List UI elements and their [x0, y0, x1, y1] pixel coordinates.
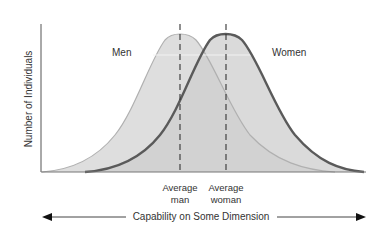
average-woman-label-line1: Average [208, 182, 243, 193]
average-man-label-line1: Average [162, 182, 197, 193]
women-label: Women [272, 47, 306, 58]
right-arrow-icon [356, 213, 366, 221]
men-label: Men [112, 47, 131, 58]
x-axis-label: Capability on Some Dimension [133, 211, 270, 222]
distribution-diagram: Number of Individuals Men Women Average … [0, 0, 387, 237]
y-axis-label: Number of Individuals [23, 51, 34, 148]
average-man-label-line2: man [171, 194, 189, 205]
average-woman-label-line2: woman [210, 194, 242, 205]
left-arrow-icon [42, 213, 52, 221]
